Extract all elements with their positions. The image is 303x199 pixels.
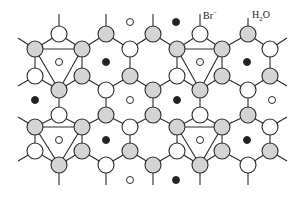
shaded-atom	[262, 143, 278, 159]
open-atom	[98, 82, 114, 98]
water-molecule	[197, 137, 204, 144]
bromide-ion	[103, 137, 110, 144]
open-atom	[27, 68, 43, 84]
bromide-ion	[174, 97, 181, 104]
shaded-atom	[27, 119, 43, 135]
shaded-atom	[145, 26, 161, 42]
water-molecule	[197, 59, 204, 66]
bromide-ion	[173, 177, 180, 184]
lattice-diagram	[0, 0, 303, 199]
bromide-ion	[173, 19, 180, 26]
water-label: H2O	[252, 10, 270, 23]
open-atom	[240, 82, 256, 98]
open-atom	[51, 26, 67, 42]
water-molecule	[269, 97, 276, 104]
shaded-atom	[74, 119, 90, 135]
shaded-atom	[240, 26, 256, 42]
bromide-label-charge: −	[213, 9, 217, 17]
shaded-atom	[214, 68, 230, 84]
shaded-atom	[169, 119, 185, 135]
open-atom	[27, 143, 43, 159]
bromide-label: Br−	[203, 10, 217, 21]
open-atom	[192, 107, 208, 123]
shaded-atom	[145, 82, 161, 98]
open-atom	[122, 41, 138, 57]
water-molecule	[56, 59, 63, 66]
water-label-o: O	[263, 9, 270, 20]
shaded-atom	[169, 41, 185, 57]
shaded-atom	[240, 107, 256, 123]
shaded-atom	[214, 143, 230, 159]
shaded-atom	[145, 157, 161, 173]
shaded-atom	[74, 143, 90, 159]
open-atom	[169, 143, 185, 159]
shaded-atom	[51, 157, 67, 173]
shaded-atom	[27, 41, 43, 57]
open-atom	[122, 119, 138, 135]
open-atom	[262, 41, 278, 57]
water-molecule	[127, 19, 134, 26]
open-atom	[262, 119, 278, 135]
open-atom	[240, 157, 256, 173]
shaded-atom	[214, 119, 230, 135]
bromide-ion	[103, 59, 110, 66]
bromide-label-text: Br	[203, 10, 213, 21]
shaded-atom	[262, 68, 278, 84]
shaded-atom	[122, 68, 138, 84]
water-molecule	[127, 177, 134, 184]
water-molecule	[127, 97, 134, 104]
shaded-atom	[74, 41, 90, 57]
shaded-atom	[74, 68, 90, 84]
shaded-atom	[98, 26, 114, 42]
shaded-atom	[98, 107, 114, 123]
bromide-ion	[244, 59, 251, 66]
open-atom	[98, 157, 114, 173]
bromide-ion	[244, 137, 251, 144]
shaded-atom	[51, 82, 67, 98]
shaded-atom	[145, 107, 161, 123]
bromide-ion	[32, 97, 39, 104]
open-atom	[192, 26, 208, 42]
shaded-atom	[122, 143, 138, 159]
open-atom	[51, 107, 67, 123]
shaded-atom	[214, 41, 230, 57]
shaded-atom	[192, 157, 208, 173]
shaded-atom	[192, 82, 208, 98]
open-atom	[169, 68, 185, 84]
water-molecule	[56, 137, 63, 144]
